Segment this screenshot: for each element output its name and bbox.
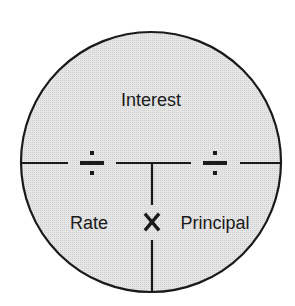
label-principal: Principal [180,213,249,233]
label-rate: Rate [70,213,108,233]
interest-formula-diagram: Interest Rate Principal [0,0,295,306]
label-interest: Interest [121,90,181,110]
